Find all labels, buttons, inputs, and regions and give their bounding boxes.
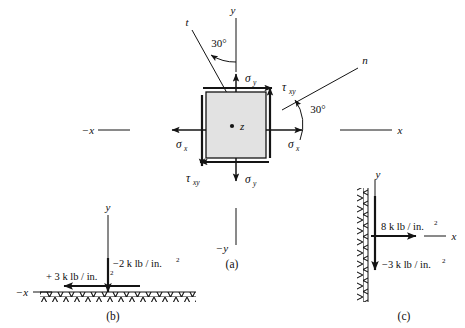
panel-c-force-horizontal-label: 8 k lb / in. 2 bbox=[381, 219, 438, 232]
figure-canvas: y −y x −x t n z 30° 30° σ y σ y σ x σ x bbox=[0, 0, 465, 328]
panel-c-force-h-text: 8 k lb / in. bbox=[381, 221, 424, 232]
label-tau-xy-bottom: τ xy bbox=[186, 172, 200, 187]
panel-b-label-y: y bbox=[105, 201, 111, 213]
sigma-x-right-symbol: σ bbox=[288, 138, 295, 150]
label-tau-xy-top: τ xy bbox=[282, 81, 296, 96]
label-axis-x: x bbox=[397, 124, 403, 136]
panel-c-wall bbox=[357, 188, 368, 302]
angle-arc-n bbox=[295, 100, 303, 140]
panel-b-force-h-text: + 3 k lb / in. bbox=[46, 271, 97, 282]
panel-b-force-vertical-label: −2 k lb / in. 2 bbox=[113, 256, 180, 269]
panel-b-force-h-sup: 2 bbox=[110, 269, 114, 277]
tau-xy-bottom-symbol: τ bbox=[186, 172, 191, 184]
panel-c-force-v-sup: 2 bbox=[442, 257, 446, 265]
label-axis-y-negative: −y bbox=[216, 242, 228, 254]
caption-panel-b: (b) bbox=[106, 310, 120, 323]
label-center-z: z bbox=[239, 120, 245, 132]
panel-b-force-v-text: −2 k lb / in. bbox=[113, 258, 162, 269]
sigma-y-bottom-subscript: y bbox=[252, 179, 257, 188]
label-axis-n: n bbox=[362, 54, 368, 66]
stress-element-square bbox=[206, 92, 266, 158]
center-point-z bbox=[230, 124, 234, 128]
caption-panel-a: (a) bbox=[226, 258, 239, 271]
panel-c-force-v-text: −3 k lb / in. bbox=[382, 259, 431, 270]
label-axis-y: y bbox=[230, 4, 236, 16]
label-sigma-y-bottom: σ y bbox=[245, 173, 257, 188]
angle-arc-t bbox=[211, 55, 236, 62]
panel-c-force-vertical-label: −3 k lb / in. 2 bbox=[382, 257, 446, 270]
sigma-x-right-subscript: x bbox=[295, 144, 300, 153]
label-sigma-x-right: σ x bbox=[288, 138, 300, 153]
sigma-y-top-subscript: y bbox=[252, 78, 257, 87]
sigma-y-top-symbol: σ bbox=[245, 72, 252, 84]
tau-xy-top-symbol: τ bbox=[282, 81, 287, 93]
label-axis-t: t bbox=[185, 16, 189, 28]
panel-b-ground bbox=[40, 292, 196, 302]
panel-b-label-x-negative: −x bbox=[16, 286, 28, 298]
sigma-x-left-symbol: σ bbox=[176, 138, 183, 150]
panel-b-force-v-sup: 2 bbox=[176, 256, 180, 264]
caption-panel-c: (c) bbox=[398, 310, 411, 323]
tau-xy-top-subscript: xy bbox=[288, 87, 296, 96]
label-sigma-y-top: σ y bbox=[245, 72, 257, 87]
label-angle-n: 30° bbox=[310, 103, 325, 115]
label-axis-x-negative: −x bbox=[82, 124, 94, 136]
stress-element-figure: y −y x −x t n z 30° 30° σ y σ y σ x σ x bbox=[0, 0, 465, 328]
panel-b-force-horizontal-label: + 3 k lb / in. 2 bbox=[46, 269, 114, 282]
sigma-x-left-subscript: x bbox=[183, 144, 188, 153]
label-angle-t: 30° bbox=[211, 37, 226, 49]
panel-c-label-x: x bbox=[451, 230, 457, 242]
sigma-y-bottom-symbol: σ bbox=[245, 173, 252, 185]
tau-xy-bottom-subscript: xy bbox=[192, 178, 200, 187]
panel-c-label-y: y bbox=[375, 168, 381, 180]
label-sigma-x-left: σ x bbox=[176, 138, 188, 153]
panel-c-force-h-sup: 2 bbox=[434, 219, 438, 227]
